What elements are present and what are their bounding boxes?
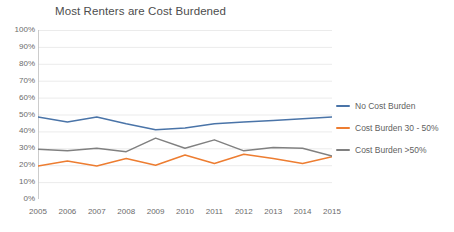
y-axis: 100%90%80%70%60%50%40%30%20%10%0% xyxy=(0,0,35,232)
legend-label: Cost Burden 30 - 50% xyxy=(355,123,439,133)
chart-title: Most Renters are Cost Burdened xyxy=(55,5,226,17)
x-tick-label: 2010 xyxy=(176,207,194,216)
y-tick-label: 10% xyxy=(3,178,35,186)
x-tick-label: 2015 xyxy=(323,207,341,216)
series-line xyxy=(38,138,332,156)
y-tick-label: 90% xyxy=(3,43,35,51)
legend-color-swatch xyxy=(336,105,350,108)
x-tick-label: 2013 xyxy=(264,207,282,216)
x-tick-label: 2007 xyxy=(88,207,106,216)
y-tick-label: 50% xyxy=(3,111,35,119)
x-axis: 2005200620072008200920102011201220132014… xyxy=(38,203,332,225)
series-line xyxy=(38,154,332,166)
series-line xyxy=(38,117,332,130)
legend-item[interactable]: Cost Burden >50% xyxy=(336,142,454,158)
x-tick-label: 2012 xyxy=(235,207,253,216)
y-tick-label: 40% xyxy=(3,127,35,135)
legend-item[interactable]: No Cost Burden xyxy=(336,98,454,114)
x-tick-label: 2011 xyxy=(206,207,223,216)
x-tick-label: 2008 xyxy=(117,207,135,216)
y-tick-label: 20% xyxy=(3,161,35,169)
chart-legend: No Cost BurdenCost Burden 30 - 50%Cost B… xyxy=(336,98,454,164)
y-tick-label: 100% xyxy=(3,26,35,34)
x-tick-label: 2009 xyxy=(147,207,165,216)
y-tick-label: 30% xyxy=(3,144,35,152)
x-tick-label: 2006 xyxy=(58,207,76,216)
legend-color-swatch xyxy=(336,127,350,130)
x-tick-label: 2005 xyxy=(29,207,47,216)
legend-color-swatch xyxy=(336,149,350,152)
y-tick-label: 60% xyxy=(3,94,35,102)
plot-svg xyxy=(38,30,332,199)
y-tick-label: 80% xyxy=(3,60,35,68)
legend-label: Cost Burden >50% xyxy=(355,145,427,155)
legend-item[interactable]: Cost Burden 30 - 50% xyxy=(336,120,454,136)
plot-area xyxy=(38,30,332,199)
y-tick-label: 70% xyxy=(3,77,35,85)
line-chart: Most Renters are Cost Burdened 100%90%80… xyxy=(0,0,454,232)
x-tick-label: 2014 xyxy=(294,207,312,216)
y-tick-label: 0% xyxy=(3,195,35,203)
legend-label: No Cost Burden xyxy=(355,101,415,111)
